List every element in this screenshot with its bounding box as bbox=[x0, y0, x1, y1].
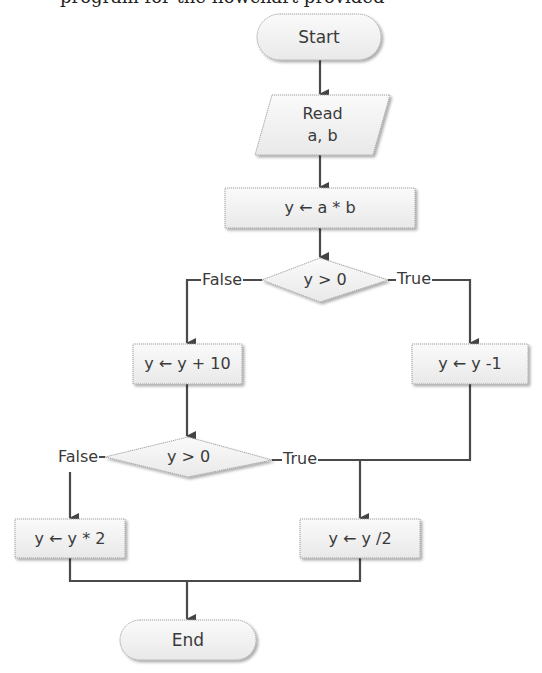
line-bottom-merge bbox=[70, 558, 360, 581]
div2-process-shape bbox=[300, 519, 420, 558]
sub1-process-shape bbox=[412, 344, 528, 384]
start-terminator-shape bbox=[257, 14, 381, 60]
decision2-true-label: True bbox=[282, 450, 318, 468]
mul2-process-shape bbox=[15, 519, 125, 558]
decision2-diamond-shape bbox=[105, 437, 272, 477]
flowchart-canvas: program for the flowchart provided bbox=[0, 0, 542, 673]
end-terminator-shape bbox=[120, 620, 256, 660]
decision2-false-label: False bbox=[57, 448, 99, 466]
add10-process-shape bbox=[133, 344, 242, 384]
read-parallelogram-shape bbox=[255, 95, 390, 155]
decision1-diamond-shape bbox=[262, 258, 388, 302]
arrow-decision1-true bbox=[388, 280, 470, 343]
decision1-true-label: True bbox=[396, 270, 432, 288]
assign-ab-process-shape bbox=[225, 188, 415, 228]
flowchart-graphics bbox=[0, 0, 542, 673]
decision1-false-label: False bbox=[201, 271, 243, 289]
arrow-decision1-false bbox=[187, 280, 262, 343]
